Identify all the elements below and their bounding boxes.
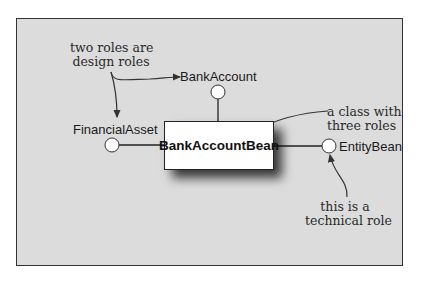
annotation-line: this is a bbox=[305, 200, 385, 214]
interface-circle-financialasset bbox=[105, 138, 119, 152]
annotation-technical-role: this is a technical role bbox=[305, 200, 385, 228]
role-label-bankaccount: BankAccount bbox=[180, 69, 257, 84]
interface-circle-entitybean bbox=[322, 139, 336, 153]
role-label-entitybean: EntityBean bbox=[339, 139, 402, 154]
annotation-line: a class with bbox=[327, 105, 395, 119]
class-name: BankAccountBean bbox=[159, 138, 279, 153]
arrow-to-bankaccount bbox=[111, 72, 180, 80]
class-box-bankaccountbean: BankAccountBean bbox=[164, 121, 274, 170]
annotation-class-roles: a class with three roles bbox=[327, 105, 395, 133]
role-label-financialasset: FinancialAsset bbox=[73, 122, 158, 137]
annotation-line: two roles are bbox=[70, 41, 152, 55]
arrow-to-entitybean bbox=[330, 155, 347, 197]
annotation-line: design roles bbox=[70, 55, 152, 69]
annotation-line: technical role bbox=[305, 214, 385, 228]
interface-circle-bankaccount bbox=[211, 85, 225, 99]
annotation-line: three roles bbox=[327, 119, 395, 133]
annotation-design-roles: two roles are design roles bbox=[70, 41, 152, 69]
